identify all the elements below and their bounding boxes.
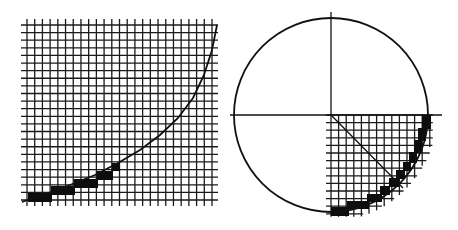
figure	[0, 0, 458, 230]
pixel-block	[28, 193, 52, 202]
pixel-block	[74, 179, 98, 188]
right-panel-circle-raster	[230, 12, 442, 217]
pixel-block	[396, 170, 405, 179]
left-panel-exponential-raster	[21, 19, 218, 206]
left-grid	[21, 19, 218, 206]
raster-diagram	[0, 0, 458, 230]
pixel-block	[403, 162, 411, 171]
